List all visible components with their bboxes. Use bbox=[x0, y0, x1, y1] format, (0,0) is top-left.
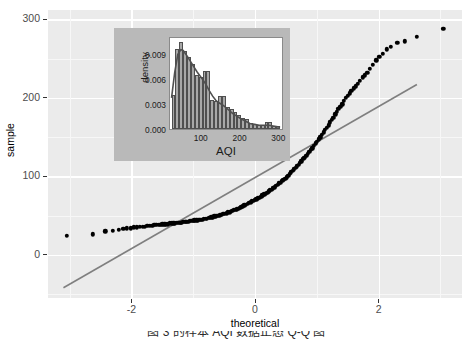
inset-x-tick-label: 100 bbox=[194, 133, 208, 143]
x-tick-label: -2 bbox=[127, 303, 136, 315]
y-tick-mark bbox=[43, 176, 47, 177]
figure-root: density 0.0000.0030.0060.009 100200300 A… bbox=[0, 0, 473, 340]
x-tick-mark bbox=[378, 299, 379, 303]
inset-y-tick-label: 0.003 bbox=[145, 100, 166, 110]
y-tick-mark bbox=[43, 19, 47, 20]
inset-x-tick-label: 200 bbox=[233, 133, 247, 143]
y-tick-mark bbox=[43, 254, 47, 255]
inset-x-axis-title: AQI bbox=[169, 145, 283, 157]
inset-plot-area bbox=[169, 37, 283, 130]
qq-plot-panel: density 0.0000.0030.0060.009 100200300 A… bbox=[48, 10, 462, 298]
y-tick-label: 200 bbox=[0, 91, 40, 103]
x-tick-mark bbox=[131, 299, 132, 303]
y-tick-mark bbox=[43, 97, 47, 98]
inset-histogram-panel: density 0.0000.0030.0060.009 100200300 A… bbox=[114, 28, 290, 161]
y-tick-label: 100 bbox=[0, 169, 40, 181]
y-tick-label: 300 bbox=[0, 12, 40, 24]
inset-y-axis-title: density bbox=[139, 40, 150, 96]
inset-x-tick-label: 300 bbox=[271, 133, 285, 143]
inset-density-curve bbox=[170, 38, 282, 129]
y-axis-title: sample bbox=[4, 110, 16, 170]
inset-y-tick-label: 0.000 bbox=[145, 125, 166, 135]
inset-y-tick-label: 0.009 bbox=[145, 50, 166, 60]
y-tick-label: 0 bbox=[0, 248, 40, 260]
figure-caption-strip: 图 3 的样本 AQI 数据正态 Q-Q 图 bbox=[0, 331, 473, 340]
figure-caption: 图 3 的样本 AQI 数据正态 Q-Q 图 bbox=[0, 331, 473, 339]
x-tick-label: 2 bbox=[376, 303, 382, 315]
inset-y-tick-label: 0.006 bbox=[145, 75, 166, 85]
x-axis-title: theoretical bbox=[48, 317, 462, 329]
x-tick-mark bbox=[255, 299, 256, 303]
x-tick-label: 0 bbox=[252, 303, 258, 315]
